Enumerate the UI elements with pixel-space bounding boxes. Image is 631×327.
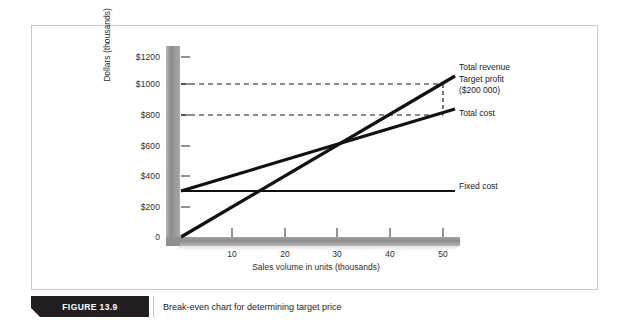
y-tick-label-400: $400 — [122, 171, 160, 181]
x-tick-label-20: 20 — [270, 249, 300, 259]
y-tick-label-200: $200 — [122, 202, 160, 212]
series-label-total-cost: Total cost — [459, 108, 495, 119]
y-axis-title: Dollars (thousands) — [102, 0, 112, 100]
figure-number-badge: FIGURE 13.9 — [31, 296, 149, 317]
figure-caption-text: Break-even chart for determining target … — [163, 296, 342, 317]
x-axis-title: Sales volume in units (thousands) — [216, 262, 416, 272]
x-tick-label-50: 50 — [428, 249, 458, 259]
series-label-total-revenue: Total revenue — [459, 62, 510, 73]
x-tick-label-10: 10 — [217, 249, 247, 259]
y-tick-label-1000: $1000 — [122, 79, 160, 89]
figure-caption-row: FIGURE 13.9 Break-even chart for determi… — [31, 296, 598, 317]
x-tick-label-40: 40 — [375, 249, 405, 259]
y-tick-label-0: 0 — [122, 232, 160, 242]
y-tick-label-600: $600 — [122, 141, 160, 151]
caption-divider — [153, 296, 154, 317]
target-profit-label-line1: Target profit — [459, 74, 504, 85]
y-tick-label-800: $800 — [122, 110, 160, 120]
y-tick-label-1200: $1200 — [122, 52, 160, 62]
series-label-target-profit: Target profit ($200 000) — [459, 74, 504, 95]
x-tick-label-30: 30 — [322, 249, 352, 259]
figure-frame — [31, 25, 598, 290]
target-profit-label-line2: ($200 000) — [459, 85, 504, 96]
series-label-fixed-cost: Fixed cost — [459, 181, 498, 192]
